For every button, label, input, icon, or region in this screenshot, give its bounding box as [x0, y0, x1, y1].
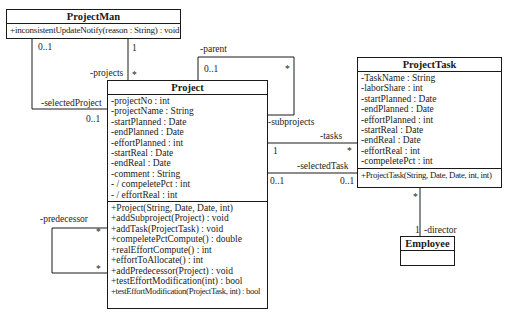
attribute: - / effortReal : int: [111, 190, 267, 200]
attributes-section: -TaskName : String -laborShare : int -st…: [358, 72, 501, 168]
class-name: Project: [108, 81, 267, 95]
attribute: -compeletePct : int: [361, 156, 501, 166]
attribute: - / compeletePct : int: [111, 179, 267, 189]
role-projects: -projects: [90, 68, 123, 78]
attribute: -startPlanned : Date: [361, 94, 501, 104]
role-director: -director: [424, 225, 457, 235]
attribute: -endReal : Date: [361, 135, 501, 145]
class-name: ProjectMan: [7, 10, 180, 24]
class-employee[interactable]: Employee: [400, 236, 455, 266]
role-parent: -parent: [200, 44, 227, 54]
method: +inconsistentUpdateNotify(reason : Strin…: [10, 25, 180, 35]
mult-director-many: *: [413, 192, 418, 202]
methods-section: +Project(String, Date, Date, int) +addSu…: [108, 201, 267, 298]
attribute: -endPlanned : Date: [111, 127, 267, 137]
attribute: -projectNo : int: [111, 96, 267, 106]
role-predecessor: -predecessor: [40, 214, 88, 224]
class-projecttask[interactable]: ProjectTask -TaskName : String -laborSha…: [357, 57, 502, 188]
class-projectman[interactable]: ProjectMan +inconsistentUpdateNotify(rea…: [6, 9, 181, 39]
attribute: -TaskName : String: [361, 73, 501, 83]
method: +testEffortModification(ProjectTask, int…: [111, 286, 267, 296]
attribute: -effortPlanned : int: [361, 115, 501, 125]
mult-parent: 0..1: [204, 64, 218, 74]
method: +testEffortModification(int) : bool: [111, 276, 267, 286]
methods-section: +inconsistentUpdateNotify(reason : Strin…: [7, 24, 180, 36]
methods-section: +ProjectTask(String, Date, Date, int, in…: [358, 168, 501, 181]
method: +addTask(ProjectTask) : void: [111, 224, 267, 234]
role-selected-project: -selectedProject: [41, 98, 102, 108]
role-tasks: -tasks: [320, 131, 342, 141]
attribute: -effortReal : int: [361, 146, 501, 156]
mult-director-one: 1: [415, 225, 420, 235]
class-name: Employee: [401, 237, 454, 251]
role-subprojects: -subprojects: [268, 117, 314, 127]
mult-projectman-selected: 0..1: [38, 42, 52, 52]
method: +addPredecessor(Project) : void: [111, 266, 267, 276]
attribute: -startPlanned : Date: [111, 117, 267, 127]
mult-parent-many: *: [285, 64, 290, 74]
method: +ProjectTask(String, Date, Date, int, in…: [361, 170, 501, 180]
mult-projects-many: *: [132, 70, 137, 80]
attribute: -endReal : Date: [111, 158, 267, 168]
attribute: -startReal : Date: [361, 125, 501, 135]
mult-projectman-projects: 1: [132, 43, 137, 53]
mult-selected-project: 0..1: [86, 114, 100, 124]
mult-tasks-many: *: [347, 146, 352, 156]
attribute: -endPlanned : Date: [361, 104, 501, 114]
attribute: -comment : String: [111, 169, 267, 179]
mult-predecessor-b: *: [96, 264, 101, 274]
method: +effortToAllocate() : int: [111, 255, 267, 265]
class-name: ProjectTask: [358, 58, 501, 72]
method: +Project(String, Date, Date, int): [111, 203, 267, 213]
mult-tasks-one: 1: [273, 146, 278, 156]
mult-selected-task-source: 0..1: [270, 176, 284, 186]
attribute: -projectName : String: [111, 106, 267, 116]
role-selected-task: -selectedTask: [297, 161, 349, 171]
class-project[interactable]: Project -projectNo : int -projectName : …: [107, 80, 268, 309]
mult-selected-task-target: 0..1: [340, 176, 354, 186]
attribute: -laborShare : int: [361, 83, 501, 93]
method: +realEffortCompute() : int: [111, 245, 267, 255]
method: +compeletePctCompute() : double: [111, 234, 267, 244]
method: +addSubproject(Project) : void: [111, 213, 267, 223]
attribute: -startReal : Date: [111, 148, 267, 158]
mult-predecessor-a: *: [96, 227, 101, 237]
attributes-section: -projectNo : int -projectName : String -…: [108, 95, 267, 201]
attribute: -effortPlanned : int: [111, 138, 267, 148]
